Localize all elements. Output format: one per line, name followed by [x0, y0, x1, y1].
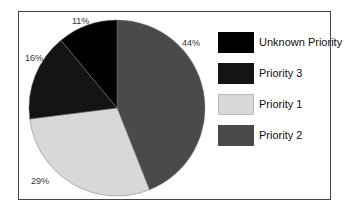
legend-swatch — [218, 125, 254, 146]
slice-label-priority-2: 44% — [182, 38, 200, 48]
legend-label: Priority 2 — [259, 129, 302, 141]
legend-label: Priority 1 — [259, 98, 302, 110]
legend-item-unknown-priority: Unknown Priority — [218, 32, 358, 53]
legend-swatch — [218, 32, 254, 53]
legend-item-priority-3: Priority 3 — [218, 63, 358, 84]
slice-label-unknown-priority: 11% — [72, 16, 89, 26]
slice-label-priority-3: 16% — [25, 53, 43, 63]
legend-swatch — [218, 63, 254, 84]
legend-label: Unknown Priority — [259, 36, 342, 48]
legend-item-priority-1: Priority 1 — [218, 94, 358, 115]
legend-swatch — [218, 94, 254, 115]
legend-label: Priority 3 — [259, 67, 302, 79]
legend-item-priority-2: Priority 2 — [218, 125, 358, 146]
slice-label-priority-1: 29% — [31, 176, 49, 186]
